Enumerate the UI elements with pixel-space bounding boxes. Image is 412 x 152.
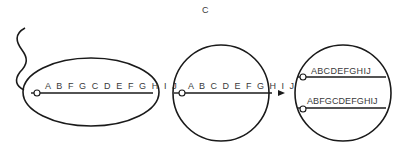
stage-ellipse: A B F G C D E F G H I J (17, 28, 179, 126)
sequence-label: A B F G C D E F G H I J (45, 81, 178, 91)
ellipse-outline (23, 58, 159, 126)
origin-marker (300, 106, 306, 112)
panel-label: C (202, 5, 209, 15)
wavy-strand (17, 28, 27, 90)
sequence-label: ABFGCDEFGHIJ (307, 96, 378, 106)
stage-circle-right: ABCDEFGHIJ ABFGCDEFGHIJ (295, 45, 391, 141)
origin-marker (300, 74, 306, 80)
origin-marker (179, 90, 185, 96)
sequence-label: A B C D E F G H I J (188, 81, 296, 91)
circle-outline (295, 45, 391, 141)
diagram-canvas: C A B F G C D E F G H I J A B C D E F G … (0, 0, 412, 152)
origin-marker (34, 90, 40, 96)
stage-circle-middle: A B C D E F G H I J (173, 45, 296, 141)
sequence-label: ABCDEFGHIJ (311, 66, 371, 76)
